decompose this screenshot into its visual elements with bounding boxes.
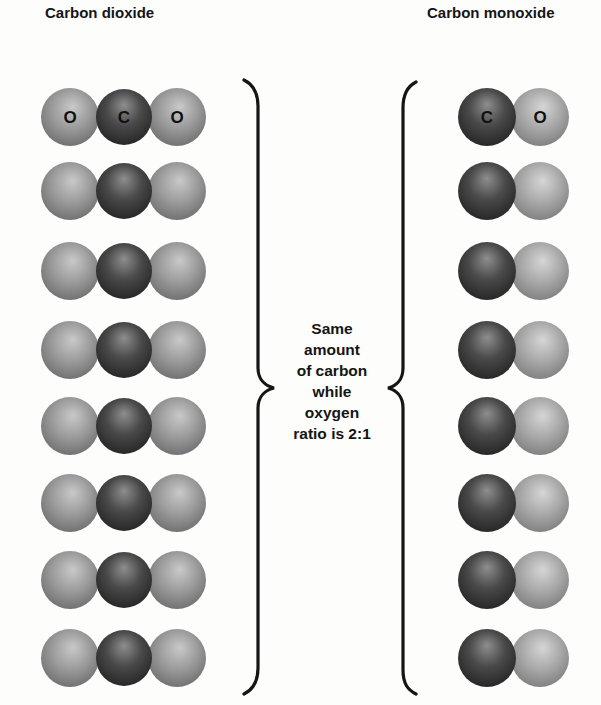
carbon-atom <box>96 475 152 531</box>
oxygen-atom <box>41 162 99 220</box>
carbon-atom <box>458 397 516 455</box>
center-line: Same <box>278 318 386 339</box>
oxygen-atom <box>148 551 206 609</box>
oxygen-atom <box>41 551 99 609</box>
oxygen-atom <box>148 162 206 220</box>
center-line: of carbon <box>278 360 386 381</box>
oxygen-atom <box>511 474 569 532</box>
carbon-atom <box>96 398 152 454</box>
oxygen-atom <box>41 474 99 532</box>
center-line: oxygen <box>278 402 386 423</box>
atom-label: C <box>118 108 130 127</box>
oxygen-atom <box>41 242 99 300</box>
atom-label: O <box>63 108 76 127</box>
carbon-atom <box>458 162 516 220</box>
oxygen-atom <box>511 397 569 455</box>
carbon-atom <box>458 551 516 609</box>
oxygen-atom <box>148 242 206 300</box>
oxygen-atom <box>511 162 569 220</box>
oxygen-atom <box>511 551 569 609</box>
carbon-atom <box>96 630 152 686</box>
oxygen-atom <box>41 629 99 687</box>
center-line: amount <box>278 339 386 360</box>
oxygen-atom <box>511 629 569 687</box>
center-line: while <box>278 381 386 402</box>
oxygen-atom <box>148 629 206 687</box>
carbon-atom <box>458 242 516 300</box>
carbon-atom <box>96 243 152 299</box>
carbon-atom <box>458 474 516 532</box>
oxygen-atom <box>148 321 206 379</box>
carbon-atom <box>458 321 516 379</box>
oxygen-atom <box>511 242 569 300</box>
right-brace <box>388 82 416 694</box>
left-brace <box>244 80 274 694</box>
atom-label: O <box>533 108 546 127</box>
oxygen-atom <box>148 474 206 532</box>
carbon-atom <box>96 163 152 219</box>
carbon-atom <box>458 629 516 687</box>
atom-label: O <box>170 108 183 127</box>
carbon-monoxide-molecules: CO <box>458 88 569 687</box>
carbon-dioxide-molecules: OCO <box>41 88 206 687</box>
oxygen-atom <box>511 321 569 379</box>
carbon-atom <box>96 552 152 608</box>
oxygen-atom <box>41 397 99 455</box>
atom-label: C <box>481 108 493 127</box>
ratio-explanation-text: Same amount of carbon while oxygen ratio… <box>278 318 386 444</box>
oxygen-atom <box>41 321 99 379</box>
oxygen-atom <box>148 397 206 455</box>
center-line: ratio is 2:1 <box>278 423 386 444</box>
carbon-atom <box>96 322 152 378</box>
